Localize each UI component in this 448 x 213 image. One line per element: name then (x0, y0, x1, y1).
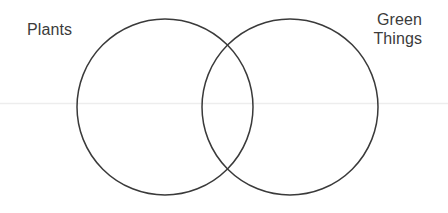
venn-label-green-things: Green Things (373, 10, 422, 48)
venn-label-plants: Plants (27, 20, 72, 39)
venn-diagram-canvas: Plants Green Things (0, 0, 448, 213)
